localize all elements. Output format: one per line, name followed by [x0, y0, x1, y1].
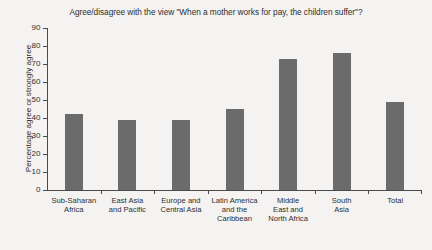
- x-tick-6: [368, 190, 369, 194]
- y-tick-label-0: 0: [36, 185, 40, 194]
- chart-title: Agree/disagree with the view "When a mot…: [0, 7, 432, 17]
- bar: [279, 59, 297, 190]
- bar: [386, 102, 404, 190]
- y-tick-label-10: 10: [32, 167, 41, 176]
- y-tick-0: 0: [43, 190, 47, 191]
- plot-area: 0102030405060708090: [47, 28, 422, 190]
- y-tick-label-80: 80: [32, 41, 41, 50]
- y-tick-20: 20: [43, 154, 47, 155]
- y-tick-label-40: 40: [32, 113, 41, 122]
- bar: [172, 120, 190, 190]
- category-label: Middle East and North Africa: [261, 196, 315, 224]
- bar: [333, 53, 351, 190]
- x-axis-line: [47, 190, 422, 191]
- x-tick-4: [261, 190, 262, 194]
- x-tick-2: [154, 190, 155, 194]
- x-tick-end: [421, 190, 422, 194]
- bar-chart: Agree/disagree with the view "When a mot…: [0, 0, 432, 250]
- y-tick-label-50: 50: [32, 95, 41, 104]
- y-tick-80: 80: [43, 46, 47, 47]
- bar: [226, 109, 244, 190]
- x-tick-1: [101, 190, 102, 194]
- bar: [118, 120, 136, 190]
- category-label: Sub-Saharan Africa: [47, 196, 101, 214]
- y-tick-label-90: 90: [32, 23, 41, 32]
- y-axis-line: [47, 28, 48, 191]
- category-label: Latin America and the Caribbean: [208, 196, 262, 224]
- y-tick-70: 70: [43, 64, 47, 65]
- y-axis-label: Percentage agree or strongly agree: [24, 29, 33, 189]
- y-tick-60: 60: [43, 82, 47, 83]
- category-label: Europe and Central Asia: [154, 196, 208, 214]
- y-tick-10: 10: [43, 172, 47, 173]
- y-tick-label-70: 70: [32, 59, 41, 68]
- bar: [65, 114, 83, 190]
- y-tick-30: 30: [43, 136, 47, 137]
- category-label: South Asia: [315, 196, 369, 214]
- y-tick-label-30: 30: [32, 131, 41, 140]
- y-tick-40: 40: [43, 118, 47, 119]
- y-tick-label-20: 20: [32, 149, 41, 158]
- x-tick-5: [315, 190, 316, 194]
- x-tick-3: [208, 190, 209, 194]
- y-tick-label-60: 60: [32, 77, 41, 86]
- y-tick-50: 50: [43, 100, 47, 101]
- category-label: East Asia and Pacific: [101, 196, 155, 214]
- y-tick-90: 90: [43, 28, 47, 29]
- category-label: Total: [368, 196, 422, 205]
